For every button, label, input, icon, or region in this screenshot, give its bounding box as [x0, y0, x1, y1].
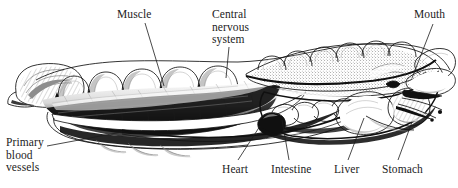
label-primary-blood-vessels: Primarybloodvessels: [6, 136, 44, 174]
label-mouth: Mouth: [414, 8, 445, 21]
label-central-nervous-system: Centralnervoussystem: [212, 8, 249, 46]
label-intestine: Intestine: [271, 163, 312, 176]
label-pbv-line2: blood: [6, 149, 33, 161]
label-cns-line3: system: [212, 33, 245, 45]
label-liver: Liver: [334, 163, 359, 176]
organism-illustration: [8, 41, 456, 157]
label-stomach: Stomach: [382, 163, 423, 176]
label-heart: Heart: [222, 163, 248, 176]
label-pbv-line1: Primary: [6, 136, 44, 148]
heart: [258, 113, 286, 136]
label-muscle: Muscle: [117, 8, 151, 21]
leader-cns: [226, 47, 229, 78]
leader-muscle: [145, 23, 164, 86]
label-cns-line2: nervous: [212, 21, 249, 33]
label-cns-line1: Central: [212, 8, 247, 20]
label-pbv-line3: vessels: [6, 161, 39, 173]
leader-heart: [238, 126, 260, 160]
